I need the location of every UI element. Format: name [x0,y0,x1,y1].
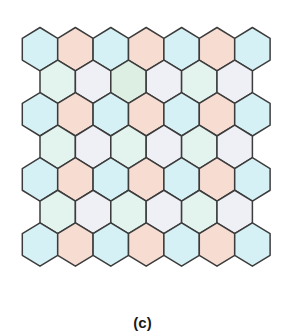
hexagonal-tiling [0,0,285,300]
figure-caption: (c) [0,314,285,332]
